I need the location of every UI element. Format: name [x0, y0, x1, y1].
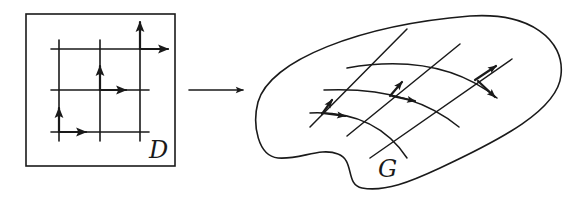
vector-curved-right-arrow-icon	[392, 96, 415, 101]
vector-curved-right-arrow-icon	[322, 113, 345, 116]
region-outline	[256, 16, 562, 189]
vector-curved-up-arrow-icon	[390, 82, 402, 96]
domain-label: D	[148, 136, 168, 164]
tangent-vectors-g	[322, 66, 496, 116]
domain-d-panel: D	[26, 14, 175, 166]
vector-curved-right-arrow-icon	[478, 81, 495, 97]
region-label: G	[378, 155, 397, 183]
region-g-panel: G	[256, 16, 562, 189]
tangent-vectors-d	[59, 22, 168, 132]
mapping-diagram: D G	[0, 0, 578, 210]
curvilinear-grid	[310, 29, 512, 158]
